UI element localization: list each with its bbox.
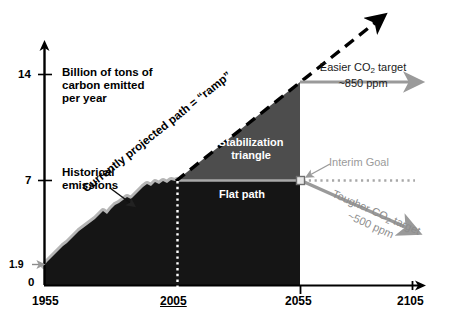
flat-path-label: Flat path: [196, 188, 288, 201]
interim-goal-leader: [308, 164, 330, 176]
y-axis-title: Billion of tons of carbon emitted per ye…: [62, 66, 153, 105]
easier-target-sub: 2: [371, 66, 375, 75]
x-tick-label-1955: 1955: [32, 294, 59, 308]
stabilization-triangle-line-2: triangle: [205, 149, 297, 162]
stabilization-wedges-chart: 14 7 0 1.9 1955 2005 2055 2105 Billion o…: [0, 0, 451, 320]
y-tick-label-0: 0: [28, 276, 34, 288]
y-axis-title-line-2: carbon emitted: [62, 79, 153, 92]
y-tick-label-14: 14: [18, 68, 31, 80]
x-tick-label-2105: 2105: [397, 294, 424, 308]
x-tick-label-2005: 2005: [160, 294, 187, 308]
x-tick-label-2055: 2055: [285, 294, 312, 308]
y-axis-title-line-3: per year: [62, 92, 153, 105]
interim-goal-label: Interim Goal: [329, 156, 389, 168]
y-tick-label-7: 7: [25, 174, 31, 186]
easier-target-pre: Easier CO: [320, 61, 371, 73]
easier-target-label: Easier CO2 target ~850 ppm: [310, 60, 416, 90]
y-axis-title-line-1: Billion of tons of: [62, 66, 153, 79]
easier-target-ppm: ~850 ppm: [310, 76, 416, 90]
stabilization-triangle-label: Stabilization triangle: [205, 136, 297, 162]
historical-emissions-area: [44, 180, 177, 285]
easier-target-post: target: [375, 61, 406, 73]
easier-target-line-1: Easier CO2 target: [310, 60, 416, 76]
interim-goal-marker: [297, 177, 305, 185]
y-label-1point9: 1.9: [9, 258, 24, 270]
stabilization-triangle-line-1: Stabilization: [205, 136, 297, 149]
